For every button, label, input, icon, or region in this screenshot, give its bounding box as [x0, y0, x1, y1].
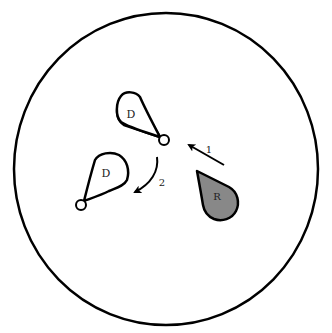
label-d-upper: D: [127, 108, 136, 121]
pivot-lower: [76, 200, 86, 210]
label-r: R: [213, 191, 221, 202]
arrow-2: 2: [135, 157, 165, 192]
boundary-circle: [14, 13, 318, 325]
label-step-1: 1: [206, 144, 212, 155]
shape-r: R: [197, 171, 238, 220]
label-d-lower: D: [102, 167, 111, 180]
diagram-canvas: D D R 1 2: [0, 0, 332, 333]
label-step-2: 2: [159, 177, 165, 188]
pivot-upper: [159, 135, 169, 145]
shape-d-lower: D: [76, 153, 128, 210]
shape-d-upper: D: [117, 92, 169, 145]
arrow-1: 1: [189, 144, 224, 165]
